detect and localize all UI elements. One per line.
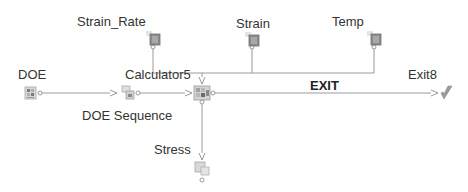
sequence-icon[interactable] — [122, 86, 134, 99]
edge-label-exit: EXIT — [310, 79, 339, 92]
workflow-canvas — [0, 0, 468, 192]
parameter-input-icon[interactable] — [146, 31, 160, 45]
node-label-doe-sequence: DOE Sequence — [82, 109, 172, 122]
parameter-input-icon[interactable] — [245, 32, 259, 46]
node-label-calculator5: Calculator5 — [125, 68, 191, 81]
node-label-doe: DOE — [18, 68, 46, 81]
parameter-input-icon[interactable] — [367, 31, 381, 45]
node-label-stress: Stress — [154, 143, 191, 156]
node-label-exit8: Exit8 — [408, 68, 437, 81]
node-label-temp: Temp — [332, 15, 364, 28]
parameter-output-icon[interactable] — [195, 162, 209, 175]
calculator-icon[interactable] — [194, 86, 210, 100]
node-label-strain: Strain — [236, 17, 270, 30]
node-label-strain-rate: Strain_Rate — [77, 15, 146, 28]
doe-driver-icon[interactable] — [25, 87, 36, 99]
exit-icon[interactable] — [441, 86, 452, 99]
connector-lines — [40, 48, 438, 160]
